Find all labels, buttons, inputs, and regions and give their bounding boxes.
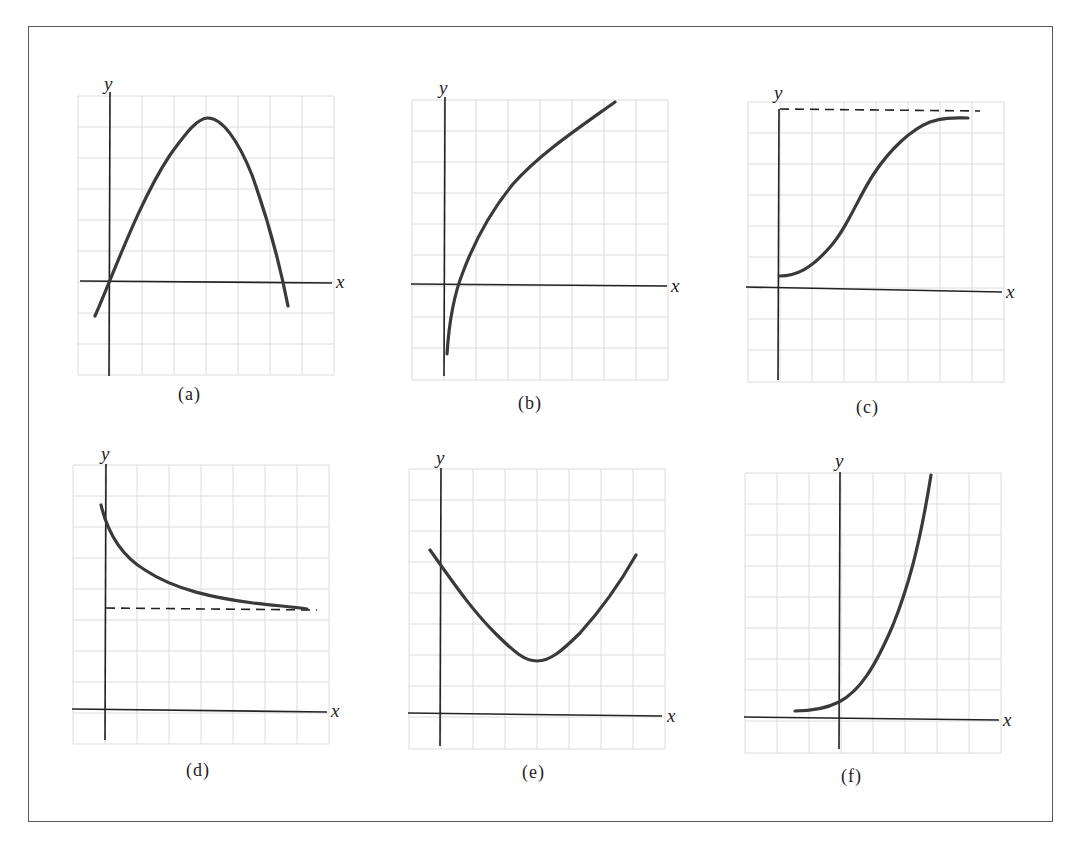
x-axis-label: x (666, 705, 676, 726)
panel-b-graph: y x (405, 72, 695, 392)
x-axis (408, 713, 662, 716)
x-axis (80, 281, 332, 283)
caption-a: (a) (178, 384, 201, 405)
x-axis-label: x (670, 275, 680, 296)
y-axis-label: y (833, 450, 844, 471)
caption-b: (b) (518, 393, 542, 414)
x-axis-label: x (1002, 709, 1012, 730)
caption-c: (c) (856, 397, 879, 418)
y-axis (444, 97, 445, 376)
y-axis (778, 109, 779, 380)
y-axis-label: y (99, 443, 110, 464)
x-axis (72, 709, 327, 712)
x-axis-label: x (1005, 281, 1015, 302)
curve-d (101, 505, 307, 609)
curve-b (447, 102, 615, 354)
panel-f-graph: y x (735, 445, 1035, 775)
grid (73, 465, 329, 744)
panel-a-graph: y x (70, 70, 360, 390)
asymptote-dashed-line (106, 608, 317, 610)
x-axis (744, 717, 999, 720)
y-axis (440, 468, 441, 746)
caption-e: (e) (522, 762, 545, 783)
y-axis (105, 464, 106, 740)
grid (78, 96, 334, 375)
grid (409, 469, 665, 749)
y-axis (839, 472, 840, 749)
y-axis (109, 92, 110, 376)
y-axis-label: y (102, 73, 113, 94)
asymptote-dashed-line (780, 109, 980, 111)
y-axis-label: y (772, 82, 783, 103)
curve-f (795, 475, 931, 711)
grid (745, 473, 1001, 753)
caption-f: (f) (841, 766, 862, 787)
grid (412, 100, 668, 380)
grid (748, 102, 1004, 382)
curve-a (95, 118, 288, 316)
panel-d-graph: y x (65, 440, 355, 770)
panel-e-graph: y x (400, 443, 690, 773)
y-axis-label: y (437, 77, 448, 98)
curve-e (430, 550, 636, 661)
panel-c-graph: y x (740, 72, 1030, 392)
y-axis-label: y (434, 447, 445, 468)
caption-d: (d) (186, 760, 210, 781)
x-axis-label: x (335, 271, 345, 292)
x-axis-label: x (330, 700, 340, 721)
